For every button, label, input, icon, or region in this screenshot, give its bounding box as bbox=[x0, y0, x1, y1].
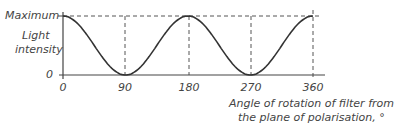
y-tick-zero: 0 bbox=[46, 68, 53, 81]
y-tick-maximum: Maximum bbox=[5, 9, 59, 22]
y-axis-label-line1: Light bbox=[22, 29, 49, 42]
x-axis-label-line1: Angle of rotation of filter from bbox=[229, 97, 394, 110]
x-axis-label-line2: the plane of polarisation, ° bbox=[238, 111, 385, 124]
y-axis-label-line2: intensity bbox=[15, 43, 63, 56]
x-tick-270: 270 bbox=[241, 81, 262, 94]
x-tick-180: 180 bbox=[179, 81, 200, 94]
intensity-curve bbox=[63, 16, 313, 75]
x-tick-90: 90 bbox=[118, 81, 132, 94]
x-tick-360: 360 bbox=[303, 81, 324, 94]
x-tick-0: 0 bbox=[60, 81, 67, 94]
